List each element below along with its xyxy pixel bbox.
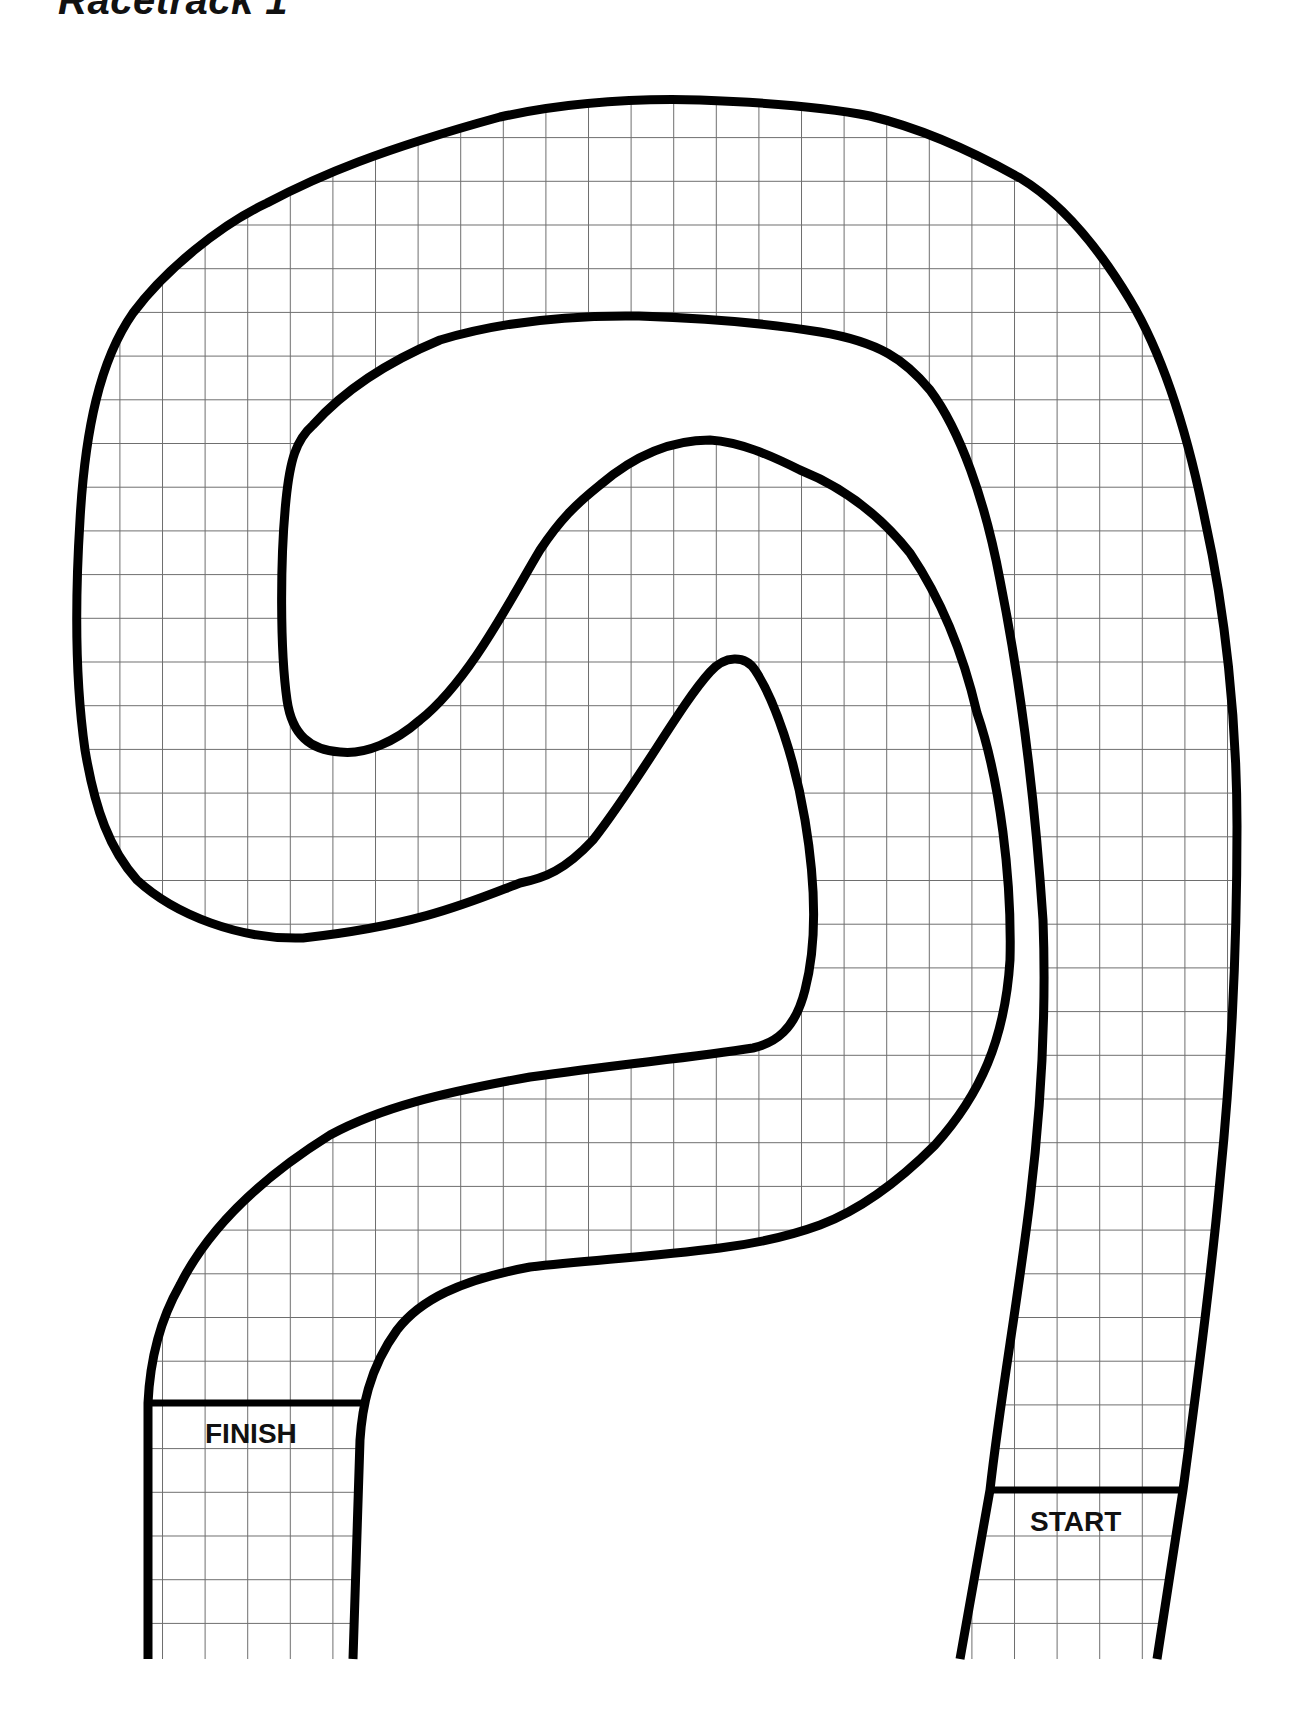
racetrack-board: FINISH START [0, 0, 1300, 1736]
start-label: START [1030, 1506, 1121, 1537]
finish-label: FINISH [205, 1418, 297, 1449]
